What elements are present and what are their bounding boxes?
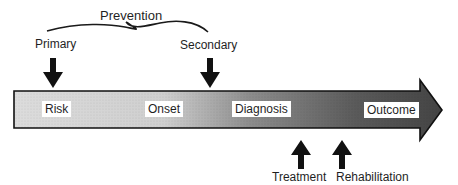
rehabilitation-label: Rehabilitation bbox=[336, 170, 409, 184]
prevention-label: Prevention bbox=[100, 8, 162, 23]
stage-diagnosis: Diagnosis bbox=[232, 101, 291, 117]
treatment-up-arrow bbox=[291, 140, 311, 169]
secondary-down-arrow bbox=[200, 58, 220, 88]
rehabilitation-up-arrow bbox=[332, 140, 352, 169]
primary-label: Primary bbox=[35, 37, 76, 51]
timeline-diagram bbox=[0, 0, 458, 185]
stage-onset: Onset bbox=[145, 101, 183, 117]
stage-outcome: Outcome bbox=[364, 102, 419, 118]
secondary-label: Secondary bbox=[180, 38, 237, 52]
treatment-label: Treatment bbox=[272, 170, 326, 184]
stage-risk: Risk bbox=[42, 101, 71, 117]
primary-down-arrow bbox=[43, 58, 63, 88]
